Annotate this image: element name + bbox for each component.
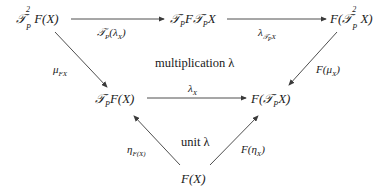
label-top-right-arrow: λ𝒯PX — [258, 27, 276, 43]
node-top-middle: 𝒯PF𝒯PX — [170, 12, 216, 29]
node-mid-right: F(𝒯PX) — [251, 92, 290, 109]
node-mid-left: 𝒯PF(X) — [95, 92, 134, 109]
label-right-diagonal: F(μX) — [316, 64, 340, 78]
label-lower-left-diagonal: ηF(X) — [127, 144, 146, 158]
label-middle-arrow: λX — [188, 83, 197, 97]
label-top-left-arrow: 𝒯P(λX) — [97, 27, 126, 41]
region-label-unit: unit λ — [181, 136, 210, 149]
node-bottom: F(X) — [181, 172, 206, 185]
region-label-multiplication: multiplication λ — [155, 57, 234, 70]
diagram-arrows — [0, 0, 391, 195]
node-top-left: 𝒯2P F(X) — [16, 12, 59, 29]
node-top-right: F(𝒯2P X) — [330, 12, 373, 29]
label-lower-right-diagonal: F(ηX) — [241, 144, 265, 158]
label-left-diagonal: μFX — [53, 64, 67, 78]
